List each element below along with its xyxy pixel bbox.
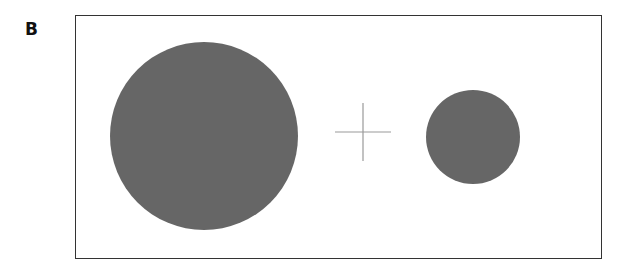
small-circle	[426, 90, 520, 184]
large-circle	[110, 42, 298, 230]
stimulus-canvas	[0, 0, 629, 271]
